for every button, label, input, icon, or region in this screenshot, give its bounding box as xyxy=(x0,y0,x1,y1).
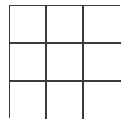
cell-1-2[interactable] xyxy=(84,44,121,82)
cell-0-1[interactable] xyxy=(47,6,84,44)
cell-2-0[interactable] xyxy=(10,82,47,119)
cell-1-1[interactable] xyxy=(47,44,84,82)
cell-0-0[interactable] xyxy=(10,6,47,44)
cell-2-2[interactable] xyxy=(84,82,121,119)
cell-0-2[interactable] xyxy=(84,6,121,44)
tic-tac-toe-board xyxy=(9,5,120,118)
cell-1-0[interactable] xyxy=(10,44,47,82)
cell-2-1[interactable] xyxy=(47,82,84,119)
